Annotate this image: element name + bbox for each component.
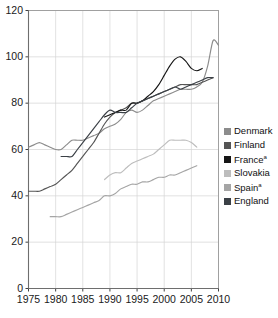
- legend-label: Denmark: [234, 126, 273, 136]
- legend-swatch-icon: [224, 198, 231, 205]
- legend-swatch-icon: [224, 128, 231, 135]
- x-axis-tick-label: 1990: [95, 294, 125, 305]
- legend-label: Spaina: [234, 180, 262, 193]
- x-axis-tick-label: 1975: [14, 294, 44, 305]
- x-axis-tick-label: 1985: [68, 294, 98, 305]
- legend-footnote-marker: a: [264, 154, 267, 160]
- x-axis-tick-label: 2005: [176, 294, 206, 305]
- legend-item-spain[interactable]: Spaina: [224, 180, 278, 194]
- legend-label: Finland: [234, 140, 265, 150]
- line-chart-figure: 120100806040200 197519801985199019952000…: [0, 0, 278, 318]
- legend-swatch-icon: [224, 170, 231, 177]
- y-axis-tick-label: 120: [1, 5, 23, 16]
- y-axis-tick-label: 100: [1, 51, 23, 62]
- legend-item-france[interactable]: Francea: [224, 152, 278, 166]
- legend-label: Slovakia: [234, 168, 270, 178]
- x-axis-tick-label: 1980: [41, 294, 71, 305]
- y-axis-tick-label: 80: [1, 97, 23, 108]
- legend-item-denmark[interactable]: Denmark: [224, 124, 278, 138]
- legend-item-finland[interactable]: Finland: [224, 138, 278, 152]
- y-axis-tick-label: 20: [1, 236, 23, 247]
- x-axis-tick-label: 2000: [149, 294, 179, 305]
- legend-item-slovakia[interactable]: Slovakia: [224, 166, 278, 180]
- legend-label: Francea: [234, 152, 267, 165]
- legend-item-england[interactable]: England: [224, 194, 278, 208]
- y-axis-tick-label: 60: [1, 144, 23, 155]
- chart-legend: DenmarkFinlandFranceaSlovakiaSpainaEngla…: [224, 124, 278, 208]
- y-axis-tick-label: 0: [1, 283, 23, 294]
- x-axis-tick-label: 1995: [122, 294, 152, 305]
- x-axis-tick-label: 2010: [204, 294, 234, 305]
- legend-label: England: [234, 196, 269, 206]
- legend-footnote-marker: a: [258, 182, 261, 188]
- y-axis-tick-label: 40: [1, 190, 23, 201]
- legend-swatch-icon: [224, 142, 231, 149]
- legend-swatch-icon: [224, 156, 231, 163]
- legend-swatch-icon: [224, 184, 231, 191]
